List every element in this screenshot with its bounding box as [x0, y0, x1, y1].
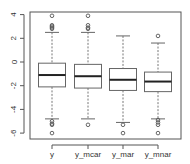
outlier-point — [86, 14, 90, 18]
outlier-point — [86, 123, 90, 127]
y-tick-label: -2 — [10, 82, 19, 90]
box-y-mnar — [145, 34, 172, 135]
outlier-point — [50, 131, 54, 135]
y-tick-label: -6 — [10, 129, 19, 137]
y-tick-label: 0 — [10, 59, 19, 64]
outlier-point — [156, 34, 160, 38]
x-axis: yy_mcary_mary_mnar — [50, 145, 172, 159]
outlier-point — [156, 123, 160, 127]
box-y-mcar — [75, 14, 102, 127]
box-y-mar — [110, 36, 137, 135]
y-tick-label: 2 — [10, 36, 19, 41]
outlier-point — [121, 131, 125, 135]
y-tick-label: -4 — [10, 105, 19, 113]
x-tick-label: y_mnar — [145, 150, 172, 159]
outlier-point — [121, 123, 125, 127]
box-y — [39, 14, 66, 135]
x-tick-label: y_mcar — [75, 150, 102, 159]
boxplot-svg: -6-4-2024 yy_mcary_mary_mnar — [0, 0, 190, 164]
outlier-point — [156, 131, 160, 135]
boxes — [39, 14, 172, 135]
y-axis: -6-4-2024 — [10, 12, 25, 137]
x-tick-label: y — [50, 150, 54, 159]
x-tick-label: y_mar — [112, 150, 135, 159]
boxplot-chart: -6-4-2024 yy_mcary_mary_mnar — [0, 0, 190, 164]
y-tick-label: 4 — [10, 12, 19, 17]
outlier-point — [50, 14, 54, 18]
